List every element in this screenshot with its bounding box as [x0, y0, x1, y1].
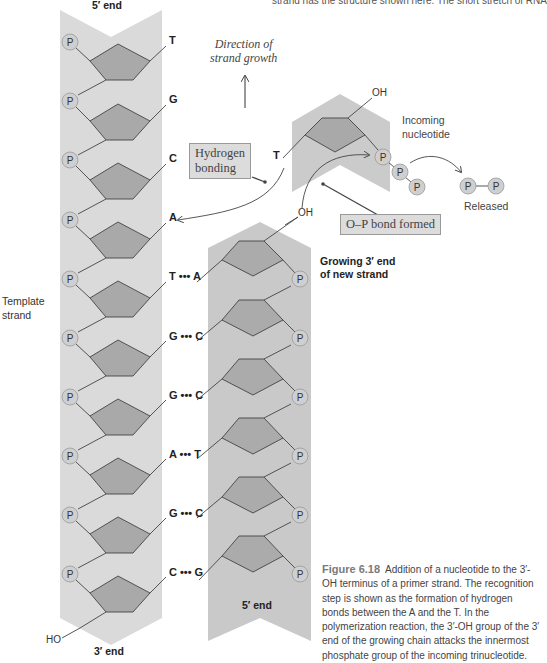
svg-text:P: P: [397, 167, 404, 178]
base-pair-6: C ••• G: [169, 566, 203, 578]
new-strand-oh-label: OH: [298, 207, 313, 218]
incoming-base-label: T: [273, 149, 280, 161]
base-pair-2: G ••• C: [169, 330, 203, 342]
svg-text:P: P: [297, 510, 304, 521]
base-pair-4: A ••• T: [169, 448, 201, 460]
template-strand-label: Template strand: [2, 294, 45, 322]
svg-text:P: P: [67, 274, 74, 285]
incoming-nucleotide-label: Incoming nucleotide: [402, 113, 450, 141]
figure-number: Figure 6.18: [322, 563, 380, 575]
svg-text:P: P: [67, 510, 74, 521]
figure-caption: Figure 6.18 Addition of a nucleotide to …: [322, 562, 542, 663]
new-strand-5-end-label: 5′ end: [242, 599, 272, 611]
svg-text:P: P: [297, 274, 304, 285]
hydrogen-bonding-box: Hydrogen bonding: [189, 143, 251, 179]
svg-text:P: P: [297, 451, 304, 462]
template-base-1: T: [169, 34, 176, 46]
template-5-end-label: 5′ end: [92, 0, 122, 11]
op-bond-box: O–P bond formed: [340, 214, 441, 235]
base-pair-1: T ••• A: [169, 270, 201, 282]
incoming-phosphates: [375, 149, 504, 195]
svg-text:P: P: [67, 37, 74, 48]
svg-text:P: P: [67, 392, 74, 403]
growing-end-label: Growing 3′ end of new strand: [320, 255, 395, 281]
caption-text: Addition of a nucleotide to the 3′-OH te…: [322, 564, 539, 661]
svg-text:P: P: [380, 152, 387, 163]
released-label: Released: [464, 199, 508, 213]
base-pair-5: G ••• C: [169, 507, 203, 519]
svg-text:P: P: [297, 333, 304, 344]
svg-text:P: P: [414, 182, 421, 193]
template-base-2: G: [169, 93, 178, 105]
svg-text:P: P: [67, 333, 74, 344]
svg-text:P: P: [67, 569, 74, 580]
template-ho-label: HO: [46, 634, 61, 645]
direction-label: Direction of strand growth: [210, 37, 277, 65]
svg-text:P: P: [67, 451, 74, 462]
svg-text:P: P: [465, 181, 472, 192]
svg-text:P: P: [67, 215, 74, 226]
svg-text:P: P: [67, 155, 74, 166]
incoming-oh-label: OH: [372, 87, 387, 98]
svg-text:P: P: [297, 569, 304, 580]
template-base-3: C: [169, 152, 177, 164]
template-3-end-label: 3′ end: [94, 645, 124, 657]
base-pair-3: G ••• C: [169, 389, 203, 401]
svg-text:P: P: [67, 96, 74, 107]
template-base-4: A: [169, 211, 177, 223]
svg-text:P: P: [493, 181, 500, 192]
svg-text:P: P: [297, 392, 304, 403]
